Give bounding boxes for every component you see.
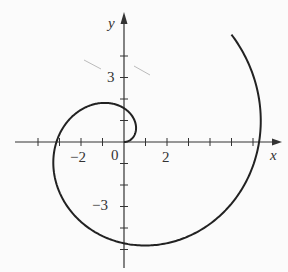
tick-label-neg3: −3 (92, 197, 108, 213)
x-axis-label: x (269, 147, 277, 163)
chart-root: y x −2 0 2 3 −3 (0, 0, 288, 272)
x-axis-arrow-icon (272, 139, 282, 146)
y-axis-arrow-icon (121, 12, 128, 24)
tick-label-0: 0 (111, 147, 119, 163)
tangent-mark-left (84, 60, 101, 69)
tick-label-3: 3 (107, 69, 115, 85)
spiral-curve (53, 35, 260, 246)
tick-label-2: 2 (162, 149, 170, 165)
y-axis-label: y (106, 15, 115, 31)
tangent-mark-right (134, 66, 150, 75)
tick-label-neg2: −2 (70, 149, 86, 165)
spiral-plot: y x −2 0 2 3 −3 (0, 0, 288, 272)
